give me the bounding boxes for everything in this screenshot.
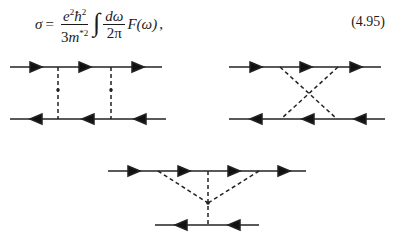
arrow-right-icon [30, 62, 42, 72]
vertex-dot [206, 201, 210, 205]
arrow-left-icon [250, 114, 262, 124]
vertex-dot [109, 88, 113, 92]
arrow-left-icon [134, 114, 146, 124]
vertex-diagram [108, 166, 306, 230]
dashed-interaction-line [158, 171, 208, 203]
ladder-diagram [10, 62, 166, 124]
arrow-right-icon [128, 166, 140, 176]
arrow-left-icon [228, 220, 240, 230]
arrow-right-icon [300, 62, 312, 72]
arrow-left-icon [354, 114, 366, 124]
arrow-left-icon [82, 114, 94, 124]
arrow-right-icon [228, 166, 240, 176]
arrow-right-icon [250, 62, 262, 72]
arrow-right-icon [278, 166, 290, 176]
feynman-diagrams [0, 0, 395, 233]
arrow-right-icon [350, 62, 362, 72]
vertex-dot [56, 88, 60, 92]
arrow-right-icon [79, 62, 91, 72]
arrow-left-icon [302, 114, 314, 124]
arrow-right-icon [178, 166, 190, 176]
arrow-left-icon [30, 114, 42, 124]
crossed-diagram [229, 62, 385, 124]
dashed-interaction-line [208, 171, 259, 203]
arrow-left-icon [175, 220, 187, 230]
arrow-right-icon [132, 62, 144, 72]
